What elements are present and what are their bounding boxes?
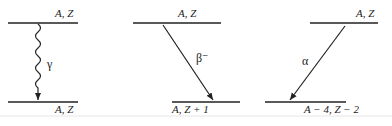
gamma-wavy-arrow (36, 24, 41, 100)
final-state-label: A − 4, Z − 2 (303, 103, 359, 115)
gamma-symbol: γ (46, 57, 53, 71)
beta-minus-decay-panel: β⁻ A, Z A, Z + 1 (133, 7, 240, 115)
initial-state-label: A, Z (355, 7, 375, 19)
final-state-label: A, Z + 1 (171, 103, 209, 115)
alpha-arrow (290, 26, 345, 100)
final-state-label: A, Z (54, 103, 74, 115)
initial-state-label: A, Z (177, 7, 197, 19)
initial-state-label: A, Z (54, 7, 74, 19)
alpha-decay-panel: α A, Z A − 4, Z − 2 (265, 7, 378, 115)
decay-diagram: γ A, Z A, Z β⁻ A, Z A, Z + 1 α A, Z A − … (0, 0, 392, 126)
alpha-symbol: α (302, 54, 309, 68)
gamma-decay-panel: γ A, Z A, Z (8, 7, 78, 115)
beta-minus-symbol: β⁻ (196, 51, 208, 65)
